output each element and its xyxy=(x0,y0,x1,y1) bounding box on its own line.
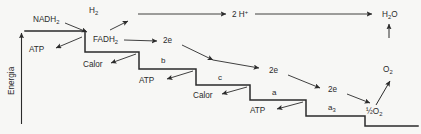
etc-diagram: Energia NADH2 H2 FADH2 2 H+ H2O O2 ½O2 2… xyxy=(0,0,421,134)
water-label: H2O xyxy=(382,10,398,20)
h2-label: H2 xyxy=(89,6,98,16)
electron-arrow-2 xyxy=(213,60,259,68)
electron-label-1: 2e xyxy=(163,36,173,45)
half-o2-to-o2-arrow xyxy=(376,81,390,105)
output-arrow-calor-2 xyxy=(222,87,247,94)
donor-group: NADH2 H2 FADH2 xyxy=(33,6,157,45)
carrier-label-a: a xyxy=(272,88,277,97)
oxygen-pathway: O2 ½O2 xyxy=(366,24,393,117)
fadh2-label: FADH2 xyxy=(93,35,118,45)
proton-water-pathway: 2 H+ H2O xyxy=(138,9,398,20)
electron-label-3: 2e xyxy=(328,85,338,94)
output-label-calor-2: Calor xyxy=(193,91,213,100)
electron-arrow-4 xyxy=(347,94,370,103)
energy-axis: Energia xyxy=(7,33,22,124)
carrier-label-c: c xyxy=(218,73,222,82)
output-arrow-atp-3 xyxy=(277,102,303,109)
output-arrow-atp-2 xyxy=(167,71,193,79)
electron-arrow-3 xyxy=(288,75,320,88)
carrier-label-b: b xyxy=(161,56,166,65)
output-label-atp-1: ATP xyxy=(29,45,45,54)
output-group: ATP Calor ATP Calor ATP xyxy=(29,37,303,115)
output-arrow-calor-1 xyxy=(111,54,136,63)
electron-label-2: 2e xyxy=(269,66,279,75)
o2-label: O2 xyxy=(383,65,393,75)
energy-axis-label: Energia xyxy=(7,66,16,95)
diagram-canvas: Energia NADH2 H2 FADH2 2 H+ H2O O2 ½O2 2… xyxy=(0,0,421,134)
fadh2-to-2e-arrow xyxy=(124,40,157,41)
half-o2-label: ½O2 xyxy=(366,107,382,117)
electron-arrow-1 xyxy=(182,45,213,60)
carrier-label-a3: a3 xyxy=(328,103,336,113)
nadh2-label: NADH2 xyxy=(33,15,59,25)
output-label-atp-2: ATP xyxy=(139,76,155,85)
h2-up-arrow xyxy=(110,21,128,30)
protons-label: 2 H+ xyxy=(232,9,249,19)
output-label-calor-1: Calor xyxy=(83,60,103,69)
output-arrow-atp-1 xyxy=(56,37,82,48)
output-label-atp-3: ATP xyxy=(250,106,266,115)
